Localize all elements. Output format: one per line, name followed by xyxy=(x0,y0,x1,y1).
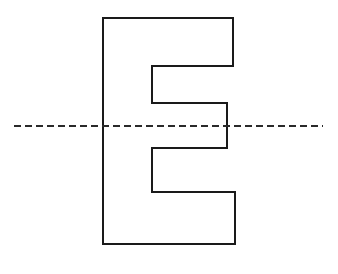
letter-e-outline xyxy=(103,18,235,244)
diagram-canvas xyxy=(0,0,338,274)
